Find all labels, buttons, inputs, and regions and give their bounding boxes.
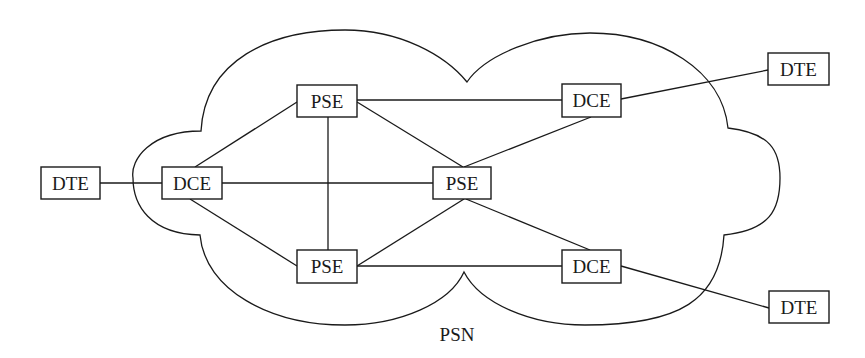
node-dte-bottom-right: DTE [769,291,829,323]
link-pse-center-dce-bottom-right [466,199,590,250]
node-dce-bottom-right: DCE [562,250,621,283]
node-label: DCE [573,256,611,277]
node-label: DCE [173,173,211,194]
node-label: DCE [573,90,611,111]
node-dce-top-right: DCE [562,84,621,117]
node-label: PSE [446,173,479,194]
node-label: PSE [311,91,344,112]
node-label: DTE [52,173,89,194]
node-dte-left: DTE [41,167,100,199]
node-label: PSE [311,256,344,277]
network-label: PSN [440,324,475,345]
node-dce-left: DCE [162,167,222,199]
link-dce-left-pse-bottom [190,199,297,266]
link-dce-bottom-right-dte-bottom-right [621,266,769,308]
link-dce-top-right-dte-top-right [621,70,768,99]
link-pse-center-pse-bottom [357,199,464,266]
node-pse-top: PSE [297,85,357,117]
link-pse-center-dce-top-right [464,117,591,167]
link-pse-top-pse-center [357,102,463,167]
node-pse-center: PSE [433,167,491,199]
node-pse-bottom: PSE [297,250,357,283]
node-label: DTE [780,59,817,80]
link-dce-left-pse-top [195,102,297,167]
node-dte-top-right: DTE [768,53,829,85]
psn-diagram: DTE DCE PSE PSE PSE DCE DCE DTE DTE PSN [0,0,865,358]
node-label: DTE [781,297,818,318]
